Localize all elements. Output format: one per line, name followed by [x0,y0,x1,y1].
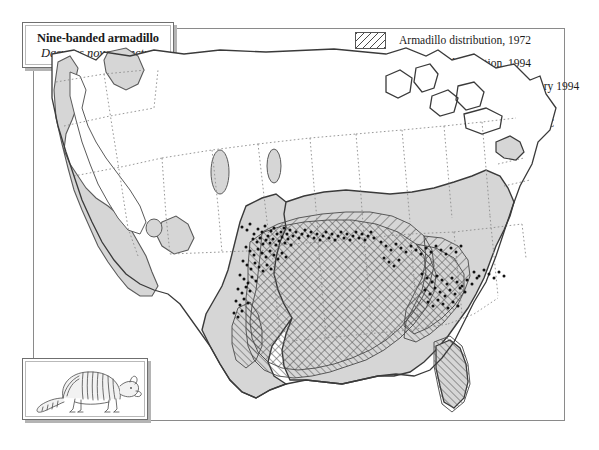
sighting-dot [245,246,248,249]
sighting-dot [269,250,272,253]
sighting-dot [358,237,361,240]
sighting-dot [246,264,249,267]
sighting-dot [247,282,250,285]
sighting-dot [431,281,434,284]
sighting-dot [436,275,439,278]
sighting-dot [445,253,448,256]
sighting-dot [400,247,403,250]
sighting-dot [239,274,242,277]
sighting-dot [292,235,295,238]
sighting-dot [242,260,245,263]
sighting-dot [322,235,325,238]
nine-banded-armadillo-illustration-icon [27,362,145,418]
sighting-dot [385,245,388,248]
sighting-dot [471,283,474,286]
sighting-dot [426,277,429,280]
sighting-dot [278,240,281,243]
sighting-dot [262,243,265,246]
sighting-dot [473,271,476,274]
sighting-dot [281,252,284,255]
sighting-dot [256,241,259,244]
sighting-dot [449,289,452,292]
sighting-dot [349,239,352,242]
sighting-dot [259,237,262,240]
sighting-dot [405,251,408,254]
sighting-dot [316,233,319,236]
armadillo-inset-box [22,358,148,420]
sighting-dot [285,256,288,259]
sighting-dot [393,265,396,268]
sighting-dot [255,280,258,283]
sighting-dot [442,303,445,306]
sighting-dot [284,242,287,245]
sighting-dot [429,293,432,296]
sighting-dot [262,270,265,273]
sighting-dot [334,239,337,242]
sighting-dot [383,257,386,260]
sighting-dot [241,310,244,313]
sighting-dot [464,291,467,294]
sighting-dot [269,242,272,245]
sighting-dot [439,291,442,294]
sighting-dot [289,229,292,232]
sighting-dot [287,238,290,241]
sighting-dot [331,233,334,236]
sighting-dot [424,289,427,292]
sighting-dot [266,264,269,267]
sighting-dot [264,225,267,228]
sighting-dot [265,256,268,259]
sighting-dot [241,292,244,295]
sighting-dot [430,251,433,254]
sighting-dot [237,316,240,319]
sighting-dot [273,254,276,257]
sighting-dot [415,249,418,252]
sighting-dot [273,227,276,230]
sighting-dot [243,298,246,301]
sighting-dot [340,231,343,234]
sighting-dot [237,288,240,291]
sighting-dot [257,228,260,231]
sighting-dot [493,277,496,280]
sighting-dot [280,231,283,234]
figure-caption [60,441,590,450]
sighting-dot [249,250,252,253]
sighting-dot [246,229,249,232]
sighting-dot [343,237,346,240]
figure-frame: Nine-banded armadillo Dasypus novemcinct… [0,0,599,450]
sighting-dot [241,226,244,229]
sighting-dot [454,293,457,296]
sighting-dot [450,247,453,250]
sighting-dot [301,233,304,236]
sighting-dot [440,249,443,252]
sighting-dot [432,305,435,308]
sighting-dot [290,244,293,247]
sighting-dot [398,259,401,262]
sighting-dot [251,276,254,279]
sighting-dot [319,239,322,242]
sighting-dot [239,304,242,307]
sighting-dot [261,231,264,234]
sighting-dot [503,275,506,278]
sighting-dot [367,235,370,238]
frame-rule-bottom [147,420,565,421]
sighting-dot [270,230,273,233]
sighting-dot [361,233,364,236]
sighting-dot [452,301,455,304]
sighting-dot [337,235,340,238]
sighting-dot [283,227,286,230]
sighting-dot [435,245,438,248]
sighting-dot [243,278,246,281]
sighting-dot [380,241,383,244]
sighting-dot [252,238,255,241]
sighting-dot [286,233,289,236]
sighting-dot [257,248,260,251]
sighting-dot [488,273,491,276]
sighting-dot [456,281,459,284]
sighting-dot [233,312,236,315]
sighting-dot [298,237,301,240]
sighting-dot [483,269,486,272]
sighting-dot [249,223,252,226]
sighting-dot [355,231,358,234]
sighting-dot [270,268,273,271]
sighting-dot [281,236,284,239]
